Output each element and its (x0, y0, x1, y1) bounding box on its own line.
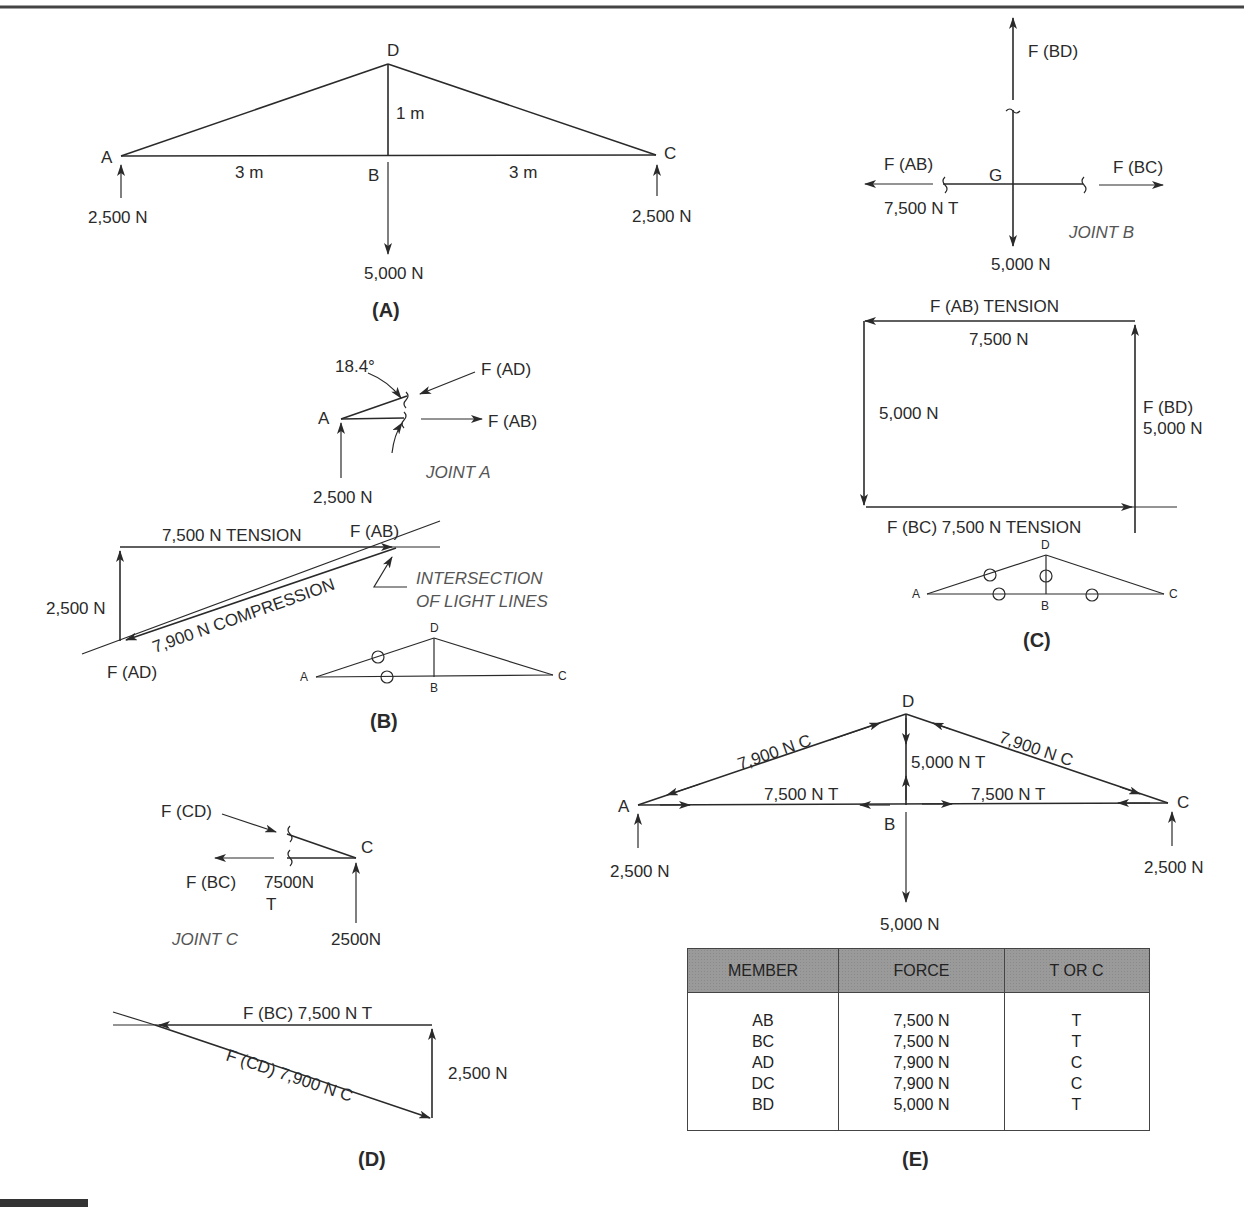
solved-member-bc-icon (1086, 589, 1098, 601)
panel-a-truss: D A C B 1 m 3 m 3 m 2,500 N 2,500 N 5,00… (88, 41, 692, 321)
header-member: MEMBER (688, 949, 839, 992)
force-bc-label: F (BC) (186, 873, 236, 892)
panel-c-joint-b: F (BD) F (AB) 7,500 N T F (BC) G JOINT B… (865, 18, 1163, 274)
panel-d-force-polygon: F (BC) 7,500 N T F (CD) 7,900 N C 2,500 … (113, 1004, 508, 1170)
mini-node-b: B (1041, 599, 1049, 613)
type-cell: C (1071, 1052, 1083, 1073)
member-cell: BC (752, 1031, 774, 1052)
type-cell: T (1072, 1010, 1082, 1031)
node-g-label: G (989, 166, 1002, 185)
member-ab-label: 7,500 N T (764, 785, 838, 804)
reaction-a-label: 2,500 N (610, 862, 670, 881)
right-label: F (BD) (1143, 398, 1193, 417)
panel-a-label: (A) (372, 299, 400, 321)
diag-label: F (CD) 7,900 N C (224, 1046, 355, 1106)
force-column: 7,500 N 7,500 N 7,900 N 7,900 N 5,000 N (839, 993, 1005, 1131)
member-cell: AB (752, 1010, 773, 1031)
node-a-label: A (618, 797, 630, 816)
right-value: 5,000 N (1143, 419, 1203, 438)
reaction-label: 2500N (331, 930, 381, 949)
panel-b-force-polygon: 7,500 N TENSION F (AB) 7,900 N COMPRESSI… (46, 521, 549, 682)
force-bd-label: F (BD) (1028, 42, 1078, 61)
force-cell: 7,900 N (893, 1073, 949, 1094)
force-cell: 7,900 N (893, 1052, 949, 1073)
force-ad-label: F (AD) (481, 360, 531, 379)
load-b-label: 5,000 N (880, 915, 940, 934)
left-span-label: 3 m (235, 163, 263, 182)
height-label: 1 m (396, 104, 424, 123)
panel-c-force-polygon: F (AB) TENSION 7,500 N 5,000 N F (BD) 5,… (864, 297, 1203, 537)
node-b-label: B (368, 166, 379, 185)
panel-b-joint-a: 18.4° F (AD) F (AB) A JOINT A 2,500 N (313, 357, 537, 507)
node-c-label: C (664, 144, 676, 163)
force-bc-label: F (BC) (1113, 158, 1163, 177)
force-ab-label: F (AB) (488, 412, 537, 431)
force-cd-label: F (CD) (161, 802, 212, 821)
reaction-c-label: 2,500 N (1144, 858, 1204, 877)
header-force: FORCE (839, 949, 1005, 992)
member-cell: DC (751, 1073, 774, 1094)
fab-label: F (AB) (350, 522, 399, 541)
joint-c-title: JOINT C (171, 930, 239, 949)
header-t-or-c: T OR C (1005, 949, 1148, 992)
mini-node-a: A (300, 670, 308, 684)
angle-label: 18.4° (335, 357, 375, 376)
panel-b-label: (B) (370, 710, 398, 732)
node-d-label: D (387, 41, 399, 60)
force-ad-arrow-icon (420, 372, 475, 394)
force-cell: 7,500 N (893, 1031, 949, 1052)
node-c-label: C (361, 838, 373, 857)
note-line-2: OF LIGHT LINES (416, 592, 549, 611)
figure-caption-tab (0, 1199, 88, 1207)
panel-c-mini-truss: A D B C (C) (912, 538, 1178, 651)
compression-label: 7,900 N COMPRESSION (150, 575, 337, 657)
force-ab-value: 7,500 N T (884, 199, 958, 218)
top-value: 7,500 N (969, 330, 1029, 349)
member-cell: BD (752, 1094, 774, 1115)
force-cd-arrow-icon (222, 814, 276, 832)
angle-pointer-icon (368, 373, 401, 398)
vertical-label: 2,500 N (448, 1064, 508, 1083)
bc-value-line-2: T (266, 895, 276, 914)
joint-node-label: A (318, 409, 330, 428)
panel-d-joint-c: F (CD) F (BC) 7500N T C JOINT C 2500N (161, 802, 381, 949)
reaction-label: 2,500 N (313, 488, 373, 507)
table-body: AB BC AD DC BD 7,500 N 7,500 N 7,900 N 7… (688, 993, 1149, 1131)
tension-label: 7,500 N TENSION (162, 526, 302, 545)
member-dc-label: 7,900 N C (997, 728, 1076, 770)
mini-node-a: A (912, 587, 920, 601)
mini-node-d: D (430, 621, 439, 635)
type-column: T T C C T (1005, 993, 1148, 1131)
member-ad-label: 7,900 N C (735, 731, 814, 774)
right-span-label: 3 m (509, 163, 537, 182)
intersection-pointer-icon (374, 557, 407, 587)
mini-node-b: B (430, 681, 438, 695)
type-cell: C (1071, 1073, 1083, 1094)
member-force-table: MEMBER FORCE T OR C AB BC AD DC BD 7,500… (687, 948, 1150, 1131)
node-c-label: C (1177, 793, 1189, 812)
member-bd-label: 5,000 N T (911, 753, 985, 772)
panel-e-label: (E) (902, 1148, 929, 1170)
panel-d-label: (D) (358, 1148, 386, 1170)
mini-node-c: C (1169, 587, 1178, 601)
joint-b-title: JOINT B (1068, 223, 1134, 242)
member-bc-label: 7,500 N T (971, 785, 1045, 804)
type-cell: T (1072, 1031, 1082, 1052)
panel-b-mini-truss: A D B C (B) (300, 621, 567, 732)
mini-node-c: C (558, 669, 567, 683)
joint-a-title: JOINT A (425, 463, 491, 482)
mini-node-d: D (1041, 538, 1050, 552)
reaction-c-label: 2,500 N (632, 207, 692, 226)
member-cell: AD (752, 1052, 774, 1073)
member-column: AB BC AD DC BD (688, 993, 839, 1131)
type-cell: T (1072, 1094, 1082, 1115)
force-cell: 5,000 N (893, 1094, 949, 1115)
note-line-1: INTERSECTION (416, 569, 543, 588)
vertical-label: 2,500 N (46, 599, 106, 618)
left-value: 5,000 N (879, 404, 939, 423)
node-d-label: D (902, 692, 914, 711)
force-ab-label: F (AB) (884, 155, 933, 174)
force-cell: 7,500 N (893, 1010, 949, 1031)
node-b-label: B (884, 815, 895, 834)
panel-c-label: (C) (1023, 629, 1051, 651)
